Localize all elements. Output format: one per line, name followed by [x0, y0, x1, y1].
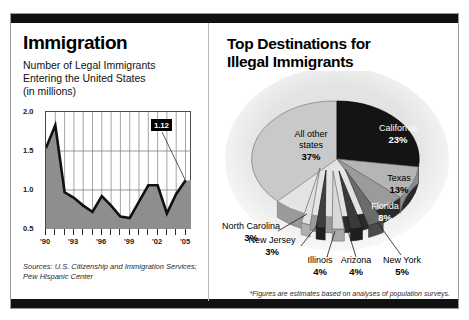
pie-value-new-jersey: 3%: [265, 246, 279, 257]
pie-value-north-carolina: 3%: [244, 232, 258, 243]
pie-value-arizona: 4%: [349, 266, 363, 277]
pie-value-california: 23%: [388, 134, 407, 145]
pie-value-florida: 8%: [378, 212, 392, 223]
infographic-root: Immigration Number of Legal Immigrants E…: [0, 0, 469, 320]
destinations-pie-chart-panel: Top Destinations for Illegal Immigrants: [209, 23, 460, 301]
chart-subtitle-line-2: Entering the United States: [23, 72, 198, 85]
sources-note: Sources: U.S. Citizenship and Immigratio…: [23, 262, 199, 282]
pie-category-illinois: Illinois: [307, 255, 332, 265]
x-axis-label-1999: '99: [124, 237, 134, 246]
x-tick: [73, 229, 74, 235]
x-axis-ticks: [45, 229, 191, 236]
pie-value-texas: 13%: [389, 184, 408, 195]
immigration-line-chart-panel: Immigration Number of Legal Immigrants E…: [11, 23, 208, 301]
pie-value-new-york: 5%: [395, 266, 409, 277]
x-tick: [119, 229, 120, 235]
y-axis-tick-2_0: 2.0: [23, 107, 43, 116]
y-axis-tick-1_5: 1.5: [23, 146, 43, 155]
x-axis-label-1996: '96: [96, 237, 106, 246]
pie-category-texas: Texas: [387, 173, 411, 183]
x-tick: [147, 229, 148, 235]
pie-chart-title-line-2: Illegal Immigrants: [227, 53, 447, 71]
top-black-bar: [11, 14, 458, 23]
pie-label-california: California 23%: [365, 123, 431, 146]
pie-category-california: California: [379, 123, 417, 133]
x-tick: [45, 229, 46, 235]
pie-label-all-other-states: All otherstates37%: [275, 129, 347, 163]
x-tick: [110, 229, 111, 235]
x-axis-label-1990: '90: [40, 237, 50, 246]
x-tick: [175, 229, 176, 235]
pie-value-illinois: 4%: [313, 266, 327, 277]
y-axis-tick-0_5: 0.5: [23, 224, 43, 233]
x-tick: [92, 229, 93, 235]
callout-leader-line: [162, 132, 186, 181]
x-tick: [185, 229, 186, 235]
x-tick: [54, 229, 55, 235]
x-tick: [64, 229, 65, 235]
infographic-frame: Immigration Number of Legal Immigrants E…: [10, 13, 459, 309]
pie-value-all-other-states: 37%: [301, 151, 320, 162]
pie-chart-title: Top Destinations for Illegal Immigrants: [227, 35, 447, 71]
y-axis-tick-1_0: 1.0: [23, 185, 43, 194]
x-axis-labels: '90 '93 '96 '99 '02 '05: [33, 237, 208, 249]
x-tick: [82, 229, 83, 235]
pie-chart: All otherstates37% California 23% Texas …: [215, 71, 460, 271]
horizontal-gridlines: [46, 151, 191, 190]
x-tick: [101, 229, 102, 235]
x-tick: [138, 229, 139, 235]
chart-subtitle-line-3: (in millions): [23, 85, 198, 98]
value-callout-badge: 1.12: [151, 119, 172, 131]
pie-label-north-carolina: North Carolina 3%: [213, 221, 289, 244]
pie-chart-footnote: *Figures are estimates based on analyses…: [250, 290, 450, 297]
pie-label-illinois: Illinois 4%: [297, 255, 343, 278]
pie-chart-title-line-1: Top Destinations for: [227, 35, 447, 53]
x-tick: [157, 229, 158, 235]
chart-subtitle: Number of Legal Immigrants Entering the …: [23, 59, 198, 98]
x-axis-label-2002: '02: [152, 237, 162, 246]
pie-slice-new-jersey-depth: [316, 227, 325, 240]
pie-category-florida: Florida: [371, 201, 399, 211]
x-tick: [166, 229, 167, 235]
line-chart: 2.0 1.5 1.0 0.5: [23, 111, 195, 239]
x-tick: [129, 229, 130, 235]
pie-label-texas: Texas 13%: [370, 173, 428, 196]
chart-subtitle-line-1: Number of Legal Immigrants: [23, 59, 198, 72]
x-axis-label-2005: '05: [180, 237, 190, 246]
x-axis-label-1993: '93: [68, 237, 78, 246]
pie-category-north-carolina: North Carolina: [222, 221, 280, 231]
pie-category-arizona: Arizona: [341, 255, 372, 265]
pie-slice-arizona-depth: [350, 227, 362, 241]
page-title: Immigration: [23, 32, 127, 54]
pie-label-florida: Florida 8%: [357, 201, 413, 224]
pie-category-new-york: New York: [383, 255, 421, 265]
